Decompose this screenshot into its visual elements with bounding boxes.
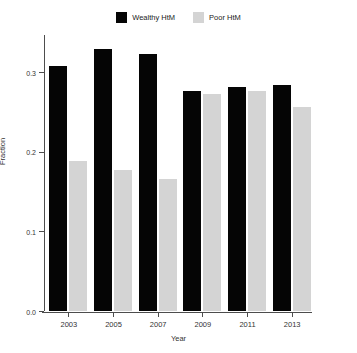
bar-chart-figure: Wealthy HtMPoor HtM 0.00.10.20.3 2003200… <box>0 0 357 353</box>
bar-wealthy-htm-2011 <box>228 87 246 311</box>
y-axis-tick: 0.2 <box>39 152 44 153</box>
bar-wealthy-htm-2007 <box>139 54 157 311</box>
x-axis-tick: 2009 <box>202 313 203 317</box>
x-axis-tick-label: 2011 <box>239 320 255 329</box>
bar-wealthy-htm-2009 <box>183 91 201 311</box>
x-axis-tick-label: 2003 <box>60 320 77 329</box>
x-axis-tick: 2011 <box>247 313 248 317</box>
x-axis-tick: 2013 <box>292 313 293 317</box>
x-axis-tick-label: 2009 <box>194 320 211 329</box>
x-axis-title: Year <box>0 334 357 343</box>
bar-poor-htm-2011 <box>248 91 266 311</box>
bar-wealthy-htm-2005 <box>94 49 112 311</box>
legend-entry: Wealthy HtM <box>116 12 175 23</box>
x-axis-tick-label: 2005 <box>105 320 122 329</box>
x-axis-line <box>42 312 312 313</box>
x-axis-tick: 2003 <box>68 313 69 317</box>
y-axis-tick-label: 0.1 <box>26 228 36 235</box>
x-axis-tick: 2007 <box>158 313 159 317</box>
y-axis-tick: 0.0 <box>39 311 44 312</box>
legend-swatch-icon <box>116 12 127 23</box>
y-axis-tick-label: 0.2 <box>26 149 36 156</box>
bar-wealthy-htm-2003 <box>49 66 67 311</box>
x-axis-tick: 2005 <box>113 313 114 317</box>
legend-label: Wealthy HtM <box>132 14 175 22</box>
y-axis-line <box>44 35 45 311</box>
legend-label: Poor HtM <box>209 14 241 22</box>
y-axis-tick-label: 0.0 <box>26 308 36 315</box>
y-axis-title: Fraction <box>0 138 7 165</box>
y-axis-tick-label: 0.3 <box>26 69 36 76</box>
plot-area: 0.00.10.20.3 200320052007200920112013 <box>44 35 312 311</box>
legend-entry: Poor HtM <box>193 12 241 23</box>
bar-poor-htm-2005 <box>114 170 132 311</box>
bar-poor-htm-2003 <box>69 161 87 311</box>
bar-poor-htm-2013 <box>293 107 311 311</box>
bar-poor-htm-2007 <box>159 179 177 311</box>
y-axis-tick: 0.3 <box>39 72 44 73</box>
bar-wealthy-htm-2013 <box>273 85 291 311</box>
legend-swatch-icon <box>193 12 204 23</box>
bar-poor-htm-2009 <box>203 94 221 311</box>
x-axis-tick-label: 2007 <box>150 320 167 329</box>
x-axis-tick-label: 2013 <box>284 320 301 329</box>
chart-legend: Wealthy HtMPoor HtM <box>0 12 357 23</box>
y-axis-tick: 0.1 <box>39 231 44 232</box>
